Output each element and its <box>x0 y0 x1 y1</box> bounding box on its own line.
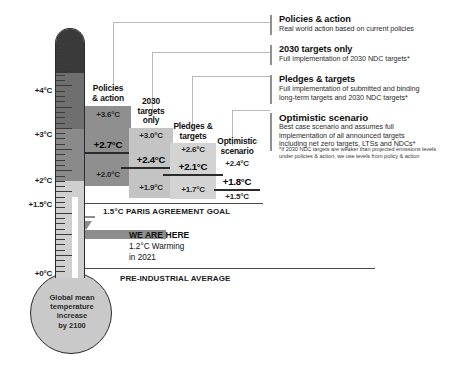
infographic-canvas: +4°C +3°C +2°C +1.5°C +0°C Global mean t… <box>0 0 459 380</box>
we-are-here-detail-1: 1.2°C Warming <box>129 242 184 251</box>
footnote-line-1: *If 2030 NDC targets are weaker than pro… <box>279 146 457 153</box>
scale-tick-minor <box>56 271 65 272</box>
legend-marker-icon <box>270 15 272 35</box>
scale-tick-minor <box>56 144 65 145</box>
legend-item-policies-action: Policies & action Real world action base… <box>270 14 456 34</box>
we-are-here-title: WE ARE HERE <box>129 230 189 240</box>
scale-tick-minor <box>56 123 65 124</box>
axis-tick-1-5c: +1.5°C <box>4 200 52 209</box>
scale-tick-minor <box>56 96 65 97</box>
bulb-caption-line-4: by 2100 <box>31 321 113 330</box>
legend-description-line-1: Full implementation of 2030 NDC targets* <box>279 55 456 64</box>
scale-tick-minor <box>56 75 65 76</box>
scale-tick-minor <box>56 112 65 113</box>
bulb-caption-line-2: temperature <box>31 302 113 311</box>
axis-tick-2c: +2°C <box>4 176 52 185</box>
column-title-optimistic-scenario: Optimistic scenario <box>212 137 262 156</box>
scale-tick-major <box>56 170 72 171</box>
scale-tick-minor <box>56 250 65 251</box>
column-title-targets-2030: 2030 targets only <box>129 97 173 126</box>
value-low-pledges-targets: +1.7°C <box>170 185 216 194</box>
thermometer-fill-cool <box>56 181 84 278</box>
value-high-targets-2030: +3.0°C <box>129 131 173 140</box>
midline-optimistic-scenario <box>214 189 260 191</box>
scale-tick-minor <box>56 181 65 182</box>
axis-tick-4c: +4°C <box>4 86 52 95</box>
legend-description-line-1: Real world action based on current polic… <box>279 25 456 34</box>
scale-tick-minor <box>56 101 65 102</box>
scale-tick-minor <box>56 229 65 230</box>
column-title-policies-action: Policies & action <box>85 84 131 103</box>
footnote-line-2: under policies & action, we use levels f… <box>279 153 457 160</box>
scale-tick-minor <box>56 207 65 208</box>
scale-tick-minor <box>56 176 65 177</box>
value-main-policies-action: +2.7°C <box>85 139 131 150</box>
scale-tick-major <box>56 43 72 44</box>
thermometer-fill-hot <box>56 29 84 73</box>
we-are-here-detail-2: in 2021 <box>129 253 156 262</box>
scale-tick-major <box>56 149 72 150</box>
connector-vertical-1 <box>113 22 114 90</box>
value-main-targets-2030: +2.4°C <box>129 154 173 165</box>
value-low-policies-action: +2.0°C <box>85 170 131 179</box>
legend-marker-icon <box>270 75 272 104</box>
legend-item-targets-2030: 2030 targets only Full implementation of… <box>270 44 456 64</box>
pre-industrial-label: PRE-INDUSTRIAL AVERAGE <box>120 274 231 283</box>
scale-tick-major <box>56 85 72 86</box>
scale-tick-minor <box>56 160 65 161</box>
value-high-policies-action: +3.6°C <box>85 110 131 119</box>
column-title-line-3: only <box>129 116 173 126</box>
column-policies-action: Policies & action +3.6°C +2.7°C +2.0°C <box>85 84 131 186</box>
scale-tick-minor <box>56 91 65 92</box>
connector-horizontal-3 <box>192 76 270 77</box>
paris-goal-line <box>85 203 263 204</box>
scale-tick-minor <box>56 186 65 187</box>
axis-tick-0c: +0°C <box>4 269 52 278</box>
scale-tick-minor <box>56 70 65 71</box>
legend-footnote: *If 2030 NDC targets are weaker than pro… <box>279 146 457 160</box>
scale-tick-minor <box>56 133 65 134</box>
scale-tick-major <box>56 107 72 108</box>
value-high-pledges-targets: +2.6°C <box>170 145 216 154</box>
legend-item-optimistic-scenario: Optimistic scenario Best case scenario a… <box>270 112 456 149</box>
column-targets-2030: 2030 targets only +3.0°C +2.4°C +1.9°C <box>129 97 173 198</box>
scale-tick-minor <box>56 239 65 240</box>
scale-tick-minor <box>56 165 65 166</box>
value-low-optimistic-scenario: +1.5°C <box>212 192 262 201</box>
axis-tick-3c: +3°C <box>4 130 52 139</box>
thermometer-tube <box>55 28 85 278</box>
scale-tick-major <box>56 234 72 235</box>
bulb-caption: Global mean temperature increase by 2100 <box>31 293 113 330</box>
legend-item-pledges-targets: Pledges & targets Full implementation of… <box>270 74 456 102</box>
bulb-caption-line-1: Global mean <box>31 293 113 302</box>
scale-tick-minor <box>56 218 65 219</box>
scale-tick-minor <box>56 54 65 55</box>
legend-description-line-2: long-term targets and 2030 NDC targets* <box>279 94 456 103</box>
scale-tick-minor <box>56 48 65 49</box>
scale-tick-minor <box>56 59 65 60</box>
scale-tick-minor <box>56 138 65 139</box>
scale-tick-major <box>56 64 72 65</box>
column-title-line-2: & action <box>85 94 131 104</box>
pre-industrial-line <box>85 268 375 269</box>
scale-tick-major <box>56 213 72 214</box>
column-optimistic-scenario: Optimistic scenario +2.4°C +1.8°C +1.5°C <box>212 137 262 206</box>
scale-tick-major <box>56 255 72 256</box>
scale-tick-minor <box>56 260 65 261</box>
connector-horizontal-1 <box>113 22 270 23</box>
scale-tick-major <box>56 191 72 192</box>
legend-marker-icon <box>270 45 272 65</box>
scale-tick-major <box>56 128 72 129</box>
value-high-optimistic-scenario: +2.4°C <box>212 159 262 168</box>
value-main-optimistic-scenario: +1.8°C <box>212 176 262 187</box>
column-title-line-2: targets <box>170 132 216 142</box>
column-title-pledges-targets: Pledges & targets <box>170 122 216 141</box>
column-title-line-2: scenario <box>212 147 262 157</box>
connector-horizontal-4 <box>232 110 270 111</box>
scale-tick-minor <box>56 266 65 267</box>
bulb-caption-line-3: increase <box>31 311 113 320</box>
thermometer-capillary <box>72 197 78 278</box>
scale-tick-minor <box>56 154 65 155</box>
scale-tick-minor <box>56 223 65 224</box>
connector-horizontal-2 <box>152 52 270 53</box>
